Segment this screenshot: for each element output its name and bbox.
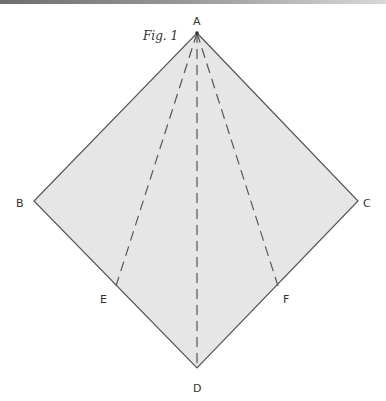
square-shape	[34, 33, 358, 368]
label-d: D	[193, 382, 201, 395]
label-a: A	[193, 15, 201, 28]
label-c: C	[363, 197, 371, 210]
figure-caption: Fig. 1	[142, 29, 178, 43]
kite-diagram: Fig. 1 A B C D E F	[0, 0, 386, 401]
vertex-a-dot	[195, 31, 199, 35]
label-f: F	[283, 293, 289, 306]
label-b: B	[16, 197, 24, 210]
label-e: E	[100, 293, 107, 306]
